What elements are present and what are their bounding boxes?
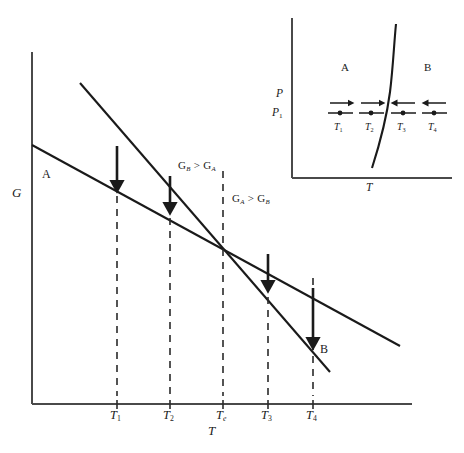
x-tick-te-sub: e — [223, 414, 226, 423]
inequality-left-op: > — [194, 159, 201, 171]
inequality-left-g2: G — [203, 159, 211, 171]
inset-tick-t2: T2 — [365, 122, 374, 133]
inequality-left-sub2: A — [212, 165, 216, 172]
inset-y-axis-label: P — [276, 88, 283, 100]
inset-pressure-symbol: P — [272, 106, 279, 118]
inset-point-t4 — [432, 111, 437, 116]
inset-pressure-sub: 1 — [279, 112, 283, 120]
inequality-right-sub1: A — [240, 198, 244, 205]
inequality-right-g1: G — [232, 192, 240, 204]
phase-label-a: A — [42, 168, 51, 180]
inset-tick-t4-sub: 4 — [434, 126, 437, 133]
free-energy-line-a — [32, 145, 400, 346]
inset-point-t2 — [369, 111, 374, 116]
inset-pressure-label: P1 — [272, 107, 283, 120]
inequality-left-sub1: B — [186, 165, 190, 172]
inset-tick-t1-sub: 1 — [340, 126, 343, 133]
inset-phase-boundary — [372, 24, 396, 168]
x-axis-label: T — [208, 424, 215, 437]
x-tick-t1-sub: 1 — [117, 414, 121, 423]
x-tick-t4: T4 — [306, 409, 317, 423]
x-tick-t2-symbol: T — [163, 408, 170, 422]
x-tick-t3-sub: 3 — [268, 414, 272, 423]
inset-x-axis-label: T — [366, 182, 372, 194]
inequality-right: GA > GB — [232, 193, 270, 206]
inset-tick-t2-sub: 2 — [371, 126, 374, 133]
x-tick-t3-symbol: T — [261, 408, 268, 422]
phase-label-b: B — [320, 343, 328, 355]
x-tick-te-symbol: T — [216, 408, 223, 422]
inset-region-label-a: A — [341, 62, 349, 73]
inequality-right-sub2: B — [266, 198, 270, 205]
x-tick-t3: T3 — [261, 409, 272, 423]
x-tick-t2-sub: 2 — [170, 414, 174, 423]
x-tick-t4-sub: 4 — [313, 414, 317, 423]
inequality-right-g2: G — [257, 192, 265, 204]
inset-tick-t4: T4 — [428, 122, 437, 133]
inset-point-t1 — [338, 111, 343, 116]
inequality-left-g1: G — [178, 159, 186, 171]
x-tick-t4-symbol: T — [306, 408, 313, 422]
inset-tick-t3: T3 — [397, 122, 406, 133]
inset-point-t3 — [401, 111, 406, 116]
inequality-left: GB > GA — [178, 160, 216, 173]
y-axis-label: G — [12, 186, 21, 199]
x-tick-t1-symbol: T — [110, 408, 117, 422]
x-tick-te: Te — [216, 409, 226, 423]
figure-canvas: G T A B GB > GA GA > GB T1 T2 Te T3 T4 P… — [0, 0, 464, 453]
inset-tick-t3-sub: 3 — [403, 126, 406, 133]
inset-axes — [292, 18, 452, 178]
inset-tick-t1: T1 — [334, 122, 343, 133]
inequality-right-op: > — [248, 192, 255, 204]
main-axes — [32, 52, 412, 404]
diagram-vector-layer — [0, 0, 464, 453]
x-tick-t2: T2 — [163, 409, 174, 423]
inset-region-label-b: B — [424, 62, 431, 73]
x-tick-t1: T1 — [110, 409, 121, 423]
